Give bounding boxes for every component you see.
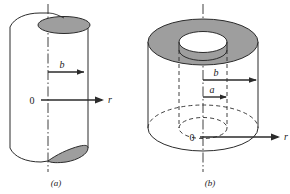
figure-root: b 0 r (a) bbox=[0, 0, 290, 194]
panel-a-radius-b-arrowhead bbox=[77, 69, 84, 74]
panel-a-label-origin: 0 bbox=[30, 95, 35, 106]
panel-b-radius-a-arrowhead bbox=[220, 94, 227, 99]
panel-a-bottom-face bbox=[48, 145, 88, 162]
panel-b-label-r: r bbox=[284, 131, 288, 142]
panel-b-label-a: a bbox=[210, 84, 215, 95]
panel-b-top-inner-hole bbox=[179, 32, 227, 53]
panel-a-label-r: r bbox=[108, 94, 112, 105]
panel-a: b 0 r (a) bbox=[10, 4, 112, 188]
panel-a-label-b: b bbox=[60, 59, 65, 70]
panel-b-label-origin: 0 bbox=[190, 132, 195, 143]
cylinder-diagram-svg: b 0 r (a) bbox=[0, 0, 290, 194]
panel-b-axis-r-arrowhead bbox=[271, 133, 280, 140]
panel-a-top-face bbox=[38, 17, 90, 34]
panel-a-bottom-cut-edge bbox=[10, 148, 48, 162]
panel-b: b a 0 r (b) bbox=[148, 4, 288, 188]
panel-a-caption: (a) bbox=[51, 178, 62, 188]
panel-b-caption: (b) bbox=[205, 178, 216, 188]
panel-b-radius-b-arrowhead bbox=[249, 77, 257, 83]
panel-b-label-b: b bbox=[214, 67, 219, 78]
panel-a-axis-r-arrowhead bbox=[95, 96, 104, 103]
